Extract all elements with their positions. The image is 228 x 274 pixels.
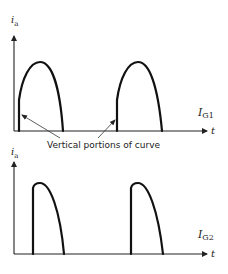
annotation-leader-2 [98, 120, 115, 138]
diagram-canvas: ia t IG1 Vertical portions of curve ia t… [0, 0, 228, 274]
top-graph: ia t IG1 [11, 14, 216, 136]
bottom-x-axis-label: t [211, 248, 216, 259]
top-y-axis-label: ia [11, 14, 18, 28]
annotation: Vertical portions of curve [22, 115, 160, 150]
top-pulse-1 [19, 62, 63, 131]
bottom-trace-label: IG2 [197, 228, 214, 242]
annotation-leader-1 [22, 115, 60, 138]
top-trace-label: IG1 [197, 106, 214, 120]
bottom-graph: ia t IG2 [11, 146, 216, 259]
top-pulse-2 [117, 62, 162, 131]
annotation-text: Vertical portions of curve [47, 140, 160, 150]
bottom-pulse-1 [33, 183, 64, 254]
top-x-axis-label: t [211, 125, 216, 136]
bottom-pulse-2 [131, 183, 163, 254]
bottom-y-axis-label: ia [11, 146, 18, 160]
